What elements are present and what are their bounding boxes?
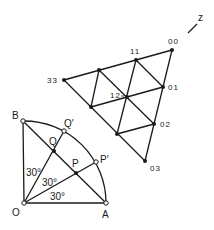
node-01: [161, 85, 165, 89]
label-11: 11: [130, 47, 140, 56]
angle-label-1: 30°: [26, 167, 41, 178]
label-00: 00: [168, 37, 179, 46]
diagram-svg: z 00 11 33 12 01 02 03: [0, 0, 214, 230]
label-P: P: [72, 158, 79, 169]
label-12: 12: [110, 91, 121, 100]
node-12: [125, 95, 129, 99]
angle-label-3: 30°: [50, 191, 65, 202]
point-O: [22, 201, 26, 205]
point-B: [21, 119, 25, 123]
node-top-mid: [97, 68, 101, 72]
diagram-canvas: z 00 11 33 12 01 02 03: [0, 0, 214, 230]
triangular-lattice: [64, 50, 172, 161]
line-OB: [23, 121, 24, 203]
node-00: [170, 48, 174, 52]
point-Qprime: [62, 129, 66, 133]
label-01: 01: [168, 83, 179, 92]
label-B: B: [12, 110, 19, 121]
label-Qprime: Q′: [64, 118, 74, 129]
label-A: A: [102, 209, 109, 220]
node-left-mid: [89, 105, 93, 109]
point-A: [104, 201, 108, 205]
label-O: O: [12, 207, 20, 218]
label-02: 02: [160, 120, 171, 129]
z-axis-line: [188, 24, 197, 33]
label-03: 03: [150, 164, 161, 173]
node-lower-mid: [115, 132, 119, 136]
angle-label-2: 30°: [42, 177, 57, 188]
point-Pprime: [94, 160, 98, 164]
point-P: [74, 171, 78, 175]
node-33: [62, 78, 66, 82]
node-02: [152, 122, 156, 126]
label-Pprime: P′: [100, 154, 109, 165]
point-Q: [52, 149, 56, 153]
z-axis-label: z: [198, 12, 203, 23]
node-03: [143, 159, 147, 163]
node-11: [134, 58, 138, 62]
label-Q: Q: [49, 136, 57, 147]
label-33: 33: [47, 76, 58, 85]
